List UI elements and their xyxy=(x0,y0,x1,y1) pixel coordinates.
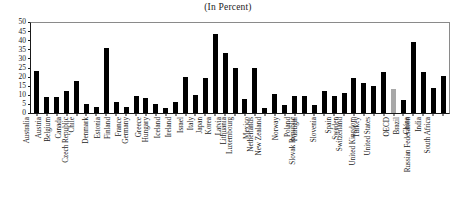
bar xyxy=(94,107,99,113)
x-axis-tick-label-text: India xyxy=(416,117,423,132)
bar xyxy=(193,95,198,113)
bar-slot xyxy=(339,22,349,113)
bar xyxy=(153,104,158,113)
y-axis-tick-label: 45 xyxy=(19,28,27,36)
bar-slot xyxy=(181,22,191,113)
bar xyxy=(401,100,406,113)
bar-slot xyxy=(399,22,409,113)
x-axis-tick-mark xyxy=(126,114,127,116)
bar-slot xyxy=(191,22,201,113)
x-axis-tick-mark xyxy=(324,114,325,116)
bar xyxy=(371,86,376,113)
x-axis-tick-label: Luxembourg xyxy=(226,117,233,154)
x-axis-tick-label: Slovak Republic xyxy=(290,117,297,165)
x-axis-tick-mark xyxy=(86,114,87,116)
x-axis-tick-label-text: Czech Republic xyxy=(64,117,71,163)
bar-slot xyxy=(369,22,379,113)
x-axis-tick-label-text: Norway xyxy=(273,117,280,140)
bar xyxy=(124,107,129,113)
x-axis-tick-label: Czech Republic xyxy=(64,117,71,163)
y-axis-tick-label: 0 xyxy=(22,109,26,117)
bar-slot xyxy=(299,22,309,113)
x-axis-tick-label: Slovenia xyxy=(312,117,319,142)
y-axis-tick-label: 5 xyxy=(22,100,26,108)
bar-slot xyxy=(240,22,250,113)
x-axis-tick-label: United Kingdom xyxy=(350,117,357,166)
bar-slot xyxy=(329,22,339,113)
bar-slot xyxy=(42,22,52,113)
bar-slot xyxy=(418,22,428,113)
x-axis-tick-label: Denmark xyxy=(83,117,90,144)
bar-slot xyxy=(52,22,62,113)
bar-slot xyxy=(428,22,438,113)
x-axis-tick-label: Japan xyxy=(197,117,204,133)
x-axis-tick-label-text: Switzerland xyxy=(337,117,344,151)
x-axis-tick-label-text: Germany xyxy=(123,117,130,144)
x-axis-tick-mark xyxy=(304,114,305,116)
bar xyxy=(242,99,247,113)
bar xyxy=(282,105,287,113)
x-axis-tick-mark xyxy=(235,114,236,116)
x-axis-tick-mark xyxy=(66,114,67,116)
chart-title: (In Percent) xyxy=(0,2,456,12)
x-axis-tick-label: India xyxy=(416,117,423,132)
x-axis-tick-label-text: United States xyxy=(364,117,371,156)
x-axis-tick-mark xyxy=(294,114,295,116)
bar xyxy=(411,42,416,113)
bar-slot xyxy=(210,22,220,113)
x-axis-labels: AustraliaAustriaBelgiumCanadaChileCzech … xyxy=(31,114,449,210)
bar xyxy=(84,104,89,113)
x-axis-label-slot: Chile xyxy=(72,114,82,210)
x-axis-tick-mark xyxy=(413,114,414,116)
x-axis-tick-label: Israel xyxy=(178,117,185,133)
x-axis-tick-label-text: United Kingdom xyxy=(350,117,357,166)
bar-slot xyxy=(290,22,300,113)
bar-slot xyxy=(72,22,82,113)
x-axis-label-slot: South Africa xyxy=(438,114,448,210)
x-axis-tick-label: Switzerland xyxy=(337,117,344,151)
x-axis-tick-mark xyxy=(116,114,117,116)
bar-slot xyxy=(171,22,181,113)
bar xyxy=(292,96,297,113)
x-axis-tick-label: Australia xyxy=(24,117,31,143)
x-axis-tick-label-text: Netherlands xyxy=(247,117,254,152)
x-axis-tick-label: Austria xyxy=(36,117,43,138)
bar-slot xyxy=(349,22,359,113)
x-axis-tick-mark xyxy=(106,114,107,116)
bar xyxy=(322,91,327,113)
bar-slot xyxy=(319,22,329,113)
y-axis-tick-label: 10 xyxy=(19,91,27,99)
x-axis-tick-mark xyxy=(244,114,245,116)
bar-slot xyxy=(250,22,260,113)
bar xyxy=(391,89,396,113)
bar-slot xyxy=(91,22,101,113)
bar xyxy=(223,53,228,113)
bar-slot xyxy=(121,22,131,113)
x-axis-tick-label-text: Slovenia xyxy=(312,117,319,142)
bar xyxy=(233,68,238,114)
bar-slot xyxy=(309,22,319,113)
x-axis-tick-mark xyxy=(344,114,345,116)
x-axis-tick-label-text: Belgium xyxy=(44,117,51,142)
x-axis-tick-label: United States xyxy=(364,117,371,156)
bar xyxy=(163,108,168,113)
x-axis-tick-mark xyxy=(284,114,285,116)
x-axis-tick-mark xyxy=(36,114,37,116)
bar-slot xyxy=(280,22,290,113)
x-axis-tick-label: Brazil xyxy=(395,117,402,135)
bar-slot xyxy=(270,22,280,113)
bar xyxy=(173,102,178,113)
x-axis-tick-mark xyxy=(155,114,156,116)
x-axis-tick-mark xyxy=(46,114,47,116)
y-axis-tick-label: 15 xyxy=(19,82,27,90)
bar-slot xyxy=(161,22,171,113)
bar-slot xyxy=(260,22,270,113)
bar-slot xyxy=(379,22,389,113)
bar-slot xyxy=(389,22,399,113)
x-axis-tick-mark xyxy=(314,114,315,116)
bar xyxy=(361,83,366,113)
x-axis-tick-label: Ireland xyxy=(165,117,172,137)
bar xyxy=(34,71,39,113)
chart-figure: (In Percent) 05101520253035404550 Austra… xyxy=(0,0,456,210)
bar xyxy=(332,96,337,113)
